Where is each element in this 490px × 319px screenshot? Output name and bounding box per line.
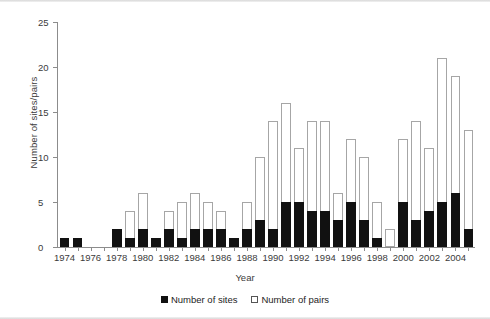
bar-segment-sites	[190, 229, 200, 247]
bar-group	[398, 139, 408, 247]
bar-segment-sites	[177, 238, 187, 247]
bar-segment-sites	[73, 238, 83, 247]
bar-segment-sites	[242, 229, 252, 247]
bar-group	[216, 211, 226, 247]
bar-group	[164, 211, 174, 247]
bar-segment-sites	[229, 238, 239, 247]
y-tick-label: 0	[38, 242, 48, 253]
y-tick-label: 20	[38, 62, 48, 73]
x-tick-label: 1978	[106, 252, 127, 263]
y-tick-label: 15	[38, 107, 48, 118]
bar-group	[138, 193, 148, 247]
bar-group	[451, 76, 461, 247]
x-tick-mark	[156, 247, 157, 251]
x-tick-mark	[325, 247, 326, 251]
bar-group	[151, 238, 161, 247]
x-tick-label: 1988	[236, 252, 257, 263]
x-tick-mark	[299, 247, 300, 251]
x-tick-mark	[78, 247, 79, 251]
x-tick-mark	[91, 247, 92, 251]
bar-group	[385, 229, 395, 247]
bar-segment-sites	[164, 229, 174, 247]
bar-group	[307, 121, 317, 247]
bar-segment-sites	[151, 238, 161, 247]
x-axis-label: Year	[0, 272, 490, 283]
bar-group	[190, 193, 200, 247]
bar-group	[294, 148, 304, 247]
x-tick-label: 1996	[341, 252, 362, 263]
plot-area: 0510152025 19741976197819801982198419861…	[57, 22, 475, 248]
bar-group	[464, 130, 474, 247]
x-tick-mark	[260, 247, 261, 251]
bar-series-container	[58, 22, 475, 247]
bar-segment-sites	[138, 229, 148, 247]
bar-segment-sites	[437, 202, 447, 247]
x-tick-mark	[429, 247, 430, 251]
bar-segment-sites	[281, 202, 291, 247]
x-tick-mark	[390, 247, 391, 251]
bar-group	[359, 157, 369, 247]
bar-segment-sites	[424, 211, 434, 247]
legend-label-sites: Number of sites	[171, 294, 238, 305]
top-divider	[0, 0, 490, 2]
bar-group	[437, 58, 447, 247]
bar-group	[268, 121, 278, 247]
bar-group	[242, 202, 252, 247]
bar-group	[411, 121, 421, 247]
x-tick-mark	[221, 247, 222, 251]
bar-group	[372, 202, 382, 247]
x-tick-mark	[416, 247, 417, 251]
bar-segment-sites	[320, 211, 330, 247]
bar-group	[73, 238, 83, 247]
x-tick-mark	[169, 247, 170, 251]
x-tick-label: 1980	[132, 252, 153, 263]
x-tick-label: 2004	[445, 252, 466, 263]
x-tick-mark	[130, 247, 131, 251]
bar-group	[346, 139, 356, 247]
x-tick-mark	[143, 247, 144, 251]
x-tick-mark	[208, 247, 209, 251]
x-tick-label: 1982	[158, 252, 179, 263]
filled-square-icon	[161, 296, 168, 303]
bar-segment-sites	[346, 202, 356, 247]
x-tick-label: 1976	[80, 252, 101, 263]
x-tick-mark	[247, 247, 248, 251]
x-tick-label: 2000	[393, 252, 414, 263]
y-axis-label: Number of sites/pairs	[28, 43, 39, 203]
bar-segment-sites	[451, 193, 461, 247]
x-tick-mark	[117, 247, 118, 251]
bar-segment-sites	[203, 229, 213, 247]
bar-segment-sites	[359, 220, 369, 247]
bar-segment-sites	[307, 211, 317, 247]
x-tick-mark	[234, 247, 235, 251]
x-tick-mark	[338, 247, 339, 251]
x-tick-mark	[364, 247, 365, 251]
bar-group	[320, 121, 330, 247]
bar-group	[333, 193, 343, 247]
x-tick-mark	[195, 247, 196, 251]
x-tick-label: 1986	[210, 252, 231, 263]
x-tick-mark	[104, 247, 105, 251]
bar-segment-sites	[268, 229, 278, 247]
bar-segment-sites	[216, 229, 226, 247]
x-tick-label: 1992	[289, 252, 310, 263]
bar-segment-sites	[411, 220, 421, 247]
bar-group	[424, 148, 434, 247]
x-tick-mark	[312, 247, 313, 251]
x-tick-label: 1974	[54, 252, 75, 263]
hollow-square-icon	[251, 296, 258, 303]
bar-group	[255, 157, 265, 247]
x-tick-mark	[273, 247, 274, 251]
y-tick-mark	[53, 247, 58, 248]
x-tick-mark	[442, 247, 443, 251]
bar-segment-sites	[60, 238, 70, 247]
bar-group	[203, 202, 213, 247]
chart-figure: Number of sites/pairs 0510152025 1974197…	[0, 0, 490, 319]
x-tick-mark	[468, 247, 469, 251]
bar-group	[177, 202, 187, 247]
bar-segment-sites	[464, 229, 474, 247]
x-tick-label: 1998	[367, 252, 388, 263]
bar-group	[281, 103, 291, 247]
bar-segment-sites	[398, 202, 408, 247]
bar-segment-sites	[125, 238, 135, 247]
